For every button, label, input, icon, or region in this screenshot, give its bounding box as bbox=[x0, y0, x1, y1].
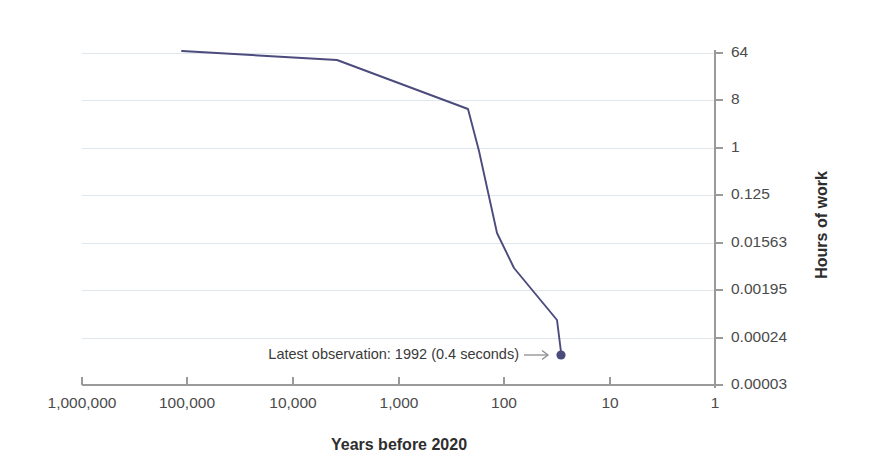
latest-observation-marker bbox=[556, 350, 565, 359]
chart-container: 64 8 1 0.125 0.01563 0.00195 0.00024 0.0… bbox=[0, 0, 871, 473]
x-tick-label-1: 1 bbox=[711, 394, 720, 411]
y-tick-label-0-125: 0.125 bbox=[731, 185, 770, 202]
line-chart: 64 8 1 0.125 0.01563 0.00195 0.00024 0.0… bbox=[0, 0, 871, 473]
latest-observation-annotation: Latest observation: 1992 (0.4 seconds) bbox=[268, 346, 548, 362]
y-tick-label-0-01563: 0.01563 bbox=[731, 233, 787, 250]
x-tick-label-1000000: 1,000,000 bbox=[48, 394, 117, 411]
x-tick-label-100000: 100,000 bbox=[159, 394, 215, 411]
x-tick-label-10: 10 bbox=[601, 394, 619, 411]
x-tick-label-100: 100 bbox=[491, 394, 517, 411]
y-tick-label-8: 8 bbox=[731, 90, 740, 107]
x-axis: 1,000,000 100,000 10,000 1,000 100 10 1 bbox=[48, 372, 722, 411]
y-tick-label-0-00024: 0.00024 bbox=[731, 328, 787, 345]
y-tick-label-1: 1 bbox=[731, 138, 740, 155]
data-series-line bbox=[182, 51, 561, 352]
y-tick-label-64: 64 bbox=[731, 43, 749, 60]
x-axis-title: Years before 2020 bbox=[331, 436, 467, 453]
y-tick-label-0-00195: 0.00195 bbox=[731, 280, 787, 297]
y-axis-title: Hours of work bbox=[813, 171, 830, 279]
gridlines bbox=[82, 53, 715, 338]
y-tick-label-0-00003: 0.00003 bbox=[731, 375, 787, 392]
x-tick-label-1000: 1,000 bbox=[380, 394, 419, 411]
x-tick-label-10000: 10,000 bbox=[269, 394, 317, 411]
annotation-label: Latest observation: 1992 (0.4 seconds) bbox=[268, 346, 519, 362]
y-axis: 64 8 1 0.125 0.01563 0.00195 0.00024 0.0… bbox=[707, 43, 787, 392]
